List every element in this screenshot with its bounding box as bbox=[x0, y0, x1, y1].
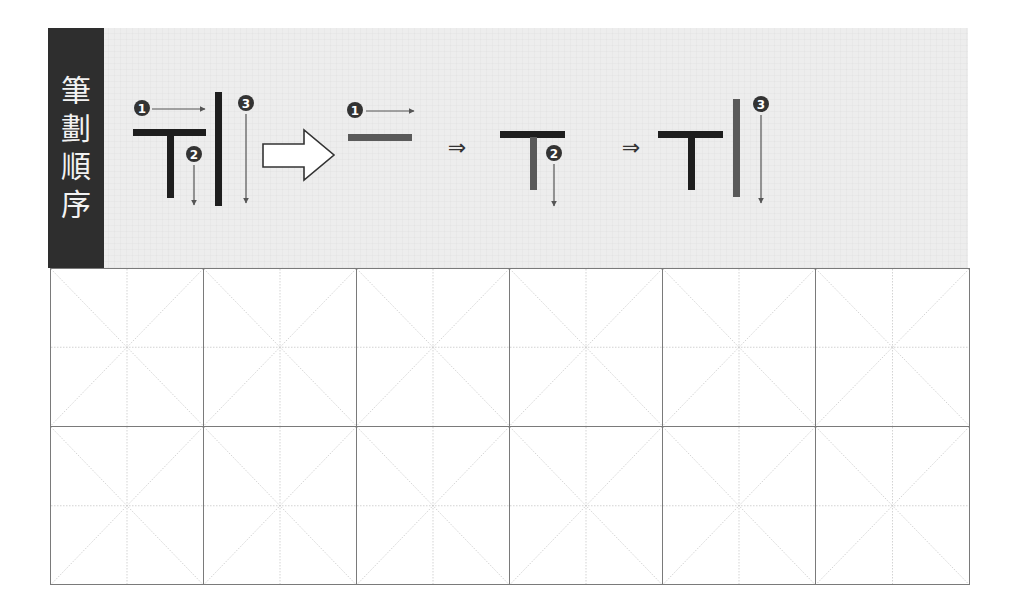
practice-cell[interactable] bbox=[510, 269, 663, 427]
mi-grid-guides bbox=[663, 427, 815, 585]
practice-cell[interactable] bbox=[663, 427, 816, 585]
practice-cell[interactable] bbox=[816, 269, 969, 427]
practice-cell[interactable] bbox=[204, 427, 357, 585]
label-char-3: 順 bbox=[61, 148, 91, 186]
stroke-3-current bbox=[733, 99, 740, 197]
mi-grid-guides bbox=[51, 269, 203, 426]
label-char-1: 筆 bbox=[61, 72, 91, 110]
marker-1-icon: 1 bbox=[347, 102, 363, 118]
svg-text:2: 2 bbox=[190, 148, 198, 162]
mi-grid-guides bbox=[816, 269, 969, 426]
section-label: 筆 劃 順 序 bbox=[48, 28, 104, 268]
stroke-2-current bbox=[530, 137, 537, 190]
svg-text:1: 1 bbox=[351, 104, 359, 118]
practice-cell[interactable] bbox=[51, 269, 204, 427]
mi-grid-guides bbox=[204, 269, 356, 426]
marker-3-icon: 3 bbox=[753, 96, 769, 112]
practice-grid bbox=[50, 268, 970, 585]
stroke-2-done bbox=[688, 136, 695, 190]
stroke-order-band bbox=[48, 28, 968, 268]
marker-2-icon: 2 bbox=[186, 146, 202, 162]
mi-grid-guides bbox=[510, 427, 662, 585]
marker-2-icon: 2 bbox=[546, 145, 562, 161]
svg-text:3: 3 bbox=[757, 98, 765, 112]
mi-grid-guides bbox=[357, 427, 509, 585]
stroke-1-done bbox=[500, 131, 565, 138]
svg-text:2: 2 bbox=[550, 147, 558, 161]
practice-cell[interactable] bbox=[357, 427, 510, 585]
stroke-1-current bbox=[348, 134, 412, 141]
mi-grid-guides bbox=[816, 427, 969, 585]
stroke-2 bbox=[167, 133, 174, 198]
stroke-order-worksheet: 筆 劃 順 序 1 2 3 bbox=[0, 0, 1018, 606]
mi-grid-guides bbox=[663, 269, 815, 426]
mi-grid-guides bbox=[204, 427, 356, 585]
mi-grid-guides bbox=[51, 427, 203, 585]
mi-grid-guides bbox=[357, 269, 509, 426]
marker-1-icon: 1 bbox=[134, 100, 150, 116]
practice-cell[interactable] bbox=[204, 269, 357, 427]
stroke-3 bbox=[215, 92, 222, 206]
practice-cell[interactable] bbox=[663, 269, 816, 427]
svg-text:3: 3 bbox=[242, 97, 250, 111]
practice-cell[interactable] bbox=[816, 427, 969, 585]
marker-3-icon: 3 bbox=[238, 95, 254, 111]
step-separator-2: ⇒ bbox=[622, 135, 640, 160]
mi-grid-guides bbox=[510, 269, 662, 426]
practice-cell[interactable] bbox=[510, 427, 663, 585]
practice-cell[interactable] bbox=[357, 269, 510, 427]
label-char-4: 序 bbox=[61, 186, 91, 224]
label-char-2: 劃 bbox=[61, 110, 91, 148]
svg-text:1: 1 bbox=[138, 102, 146, 116]
practice-cell[interactable] bbox=[51, 427, 204, 585]
step-separator-1: ⇒ bbox=[448, 135, 466, 160]
